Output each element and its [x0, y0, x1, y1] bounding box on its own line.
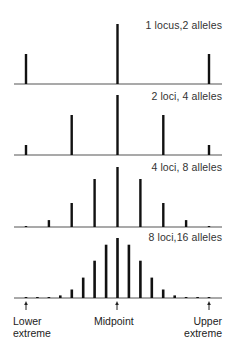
panel-4-bar	[128, 245, 131, 298]
panel-2-bar	[71, 115, 73, 155]
panel-4-bar	[25, 297, 28, 298]
upper-extreme-line2: extreme	[184, 327, 222, 339]
panel-1-bar	[208, 54, 210, 84]
panel-4-bar	[162, 290, 165, 299]
midpoint-arrow-icon	[115, 301, 119, 305]
lower-extreme-line2: extreme	[13, 327, 51, 339]
upper-extreme-line1: Upper	[184, 315, 222, 327]
lower-extreme-line1: Lower	[13, 315, 51, 327]
panel-4-bar	[82, 278, 85, 298]
panel-3-bar	[116, 167, 118, 227]
panel-4-label: 8 loci,16 alleles	[149, 231, 223, 243]
lower-extreme-arrow-icon	[24, 301, 28, 305]
panel-4-bar	[36, 297, 39, 298]
panel-3-bar	[185, 220, 187, 227]
panel-1-bar	[116, 24, 118, 84]
panel-2-label: 2 loci, 4 alleles	[151, 90, 222, 102]
panel-2-bar	[208, 145, 210, 155]
panel-3-bar	[71, 203, 73, 227]
panel-4-bar	[71, 290, 74, 299]
panel-4-bar	[185, 297, 188, 298]
panel-3-label: 4 loci, 8 alleles	[151, 161, 222, 173]
upper-extreme-label: Upper extreme	[184, 315, 222, 339]
panel-4-bar	[196, 297, 199, 298]
panel-2-bar	[25, 145, 27, 155]
panel-4-bar	[116, 238, 119, 298]
panel-4-bar	[48, 297, 51, 298]
panel-3-bar	[48, 220, 50, 227]
panel-4-bar	[139, 261, 142, 298]
upper-extreme-arrow-icon	[207, 301, 211, 305]
panel-4-bar	[208, 297, 211, 298]
panel-1-label: 1 locus,2 alleles	[146, 19, 222, 31]
panel-3-bar	[208, 226, 210, 227]
midpoint-label: Midpoint	[94, 315, 134, 327]
panel-3-bar	[93, 179, 95, 227]
lower-extreme-label: Lower extreme	[13, 315, 51, 339]
panel-4-bar	[151, 278, 154, 298]
panel-2-bar	[162, 115, 164, 155]
panel-2-bar	[116, 95, 118, 155]
polygenic-distribution-figure	[0, 0, 235, 357]
panel-4-bar	[59, 295, 62, 298]
panel-4-bar	[105, 245, 108, 298]
panel-4-bar	[93, 261, 96, 298]
panel-3-bar	[25, 226, 27, 227]
panel-3-bar	[139, 179, 141, 227]
panel-4-bar	[173, 295, 176, 298]
midpoint-text: Midpoint	[94, 315, 134, 327]
panel-3-bar	[162, 203, 164, 227]
panel-1-bar	[25, 54, 27, 84]
